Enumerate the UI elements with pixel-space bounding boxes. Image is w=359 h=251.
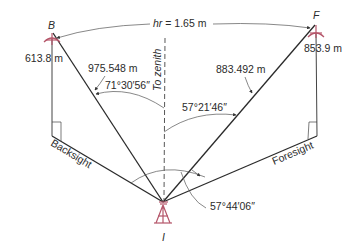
hr-leader-right bbox=[213, 24, 310, 29]
surveying-diagram: B F I hr = 1.65 m 613.8 m 853.9 m 975.54… bbox=[0, 0, 359, 251]
label-zenith: To zenith bbox=[151, 49, 163, 91]
backsight-slope-line bbox=[53, 33, 163, 202]
label-i: I bbox=[162, 231, 165, 243]
label-backsight: Backsight bbox=[49, 136, 94, 170]
label-foresight: Foresight bbox=[270, 139, 315, 167]
b-zenith-angle-arc bbox=[96, 91, 164, 108]
foresight-target-icon bbox=[308, 25, 324, 38]
label-horizontal-angle: 57°44′06″ bbox=[210, 200, 255, 212]
label-b-elevation: 613.8 m bbox=[25, 52, 63, 64]
f-distance-leader bbox=[245, 77, 252, 93]
hr-value: = 1.65 m bbox=[162, 17, 206, 29]
foresight-slope-line bbox=[163, 25, 315, 202]
zenith-line bbox=[164, 38, 165, 200]
label-f-elevation: 853.9 m bbox=[304, 42, 342, 54]
label-f-zenith-angle: 57°21′46″ bbox=[182, 101, 227, 113]
hr-leader-left bbox=[57, 24, 150, 38]
label-b-zenith-angle: 71°30′56″ bbox=[105, 79, 150, 91]
label-f-slope-distance: 883.492 m bbox=[216, 63, 266, 75]
b-distance-leader bbox=[95, 76, 105, 90]
instrument-tripod-icon bbox=[154, 202, 172, 223]
label-hr: hr = 1.65 m bbox=[153, 17, 207, 29]
label-b: B bbox=[48, 19, 55, 31]
label-b-slope-distance: 975.548 m bbox=[88, 62, 138, 74]
label-f: F bbox=[313, 9, 320, 21]
